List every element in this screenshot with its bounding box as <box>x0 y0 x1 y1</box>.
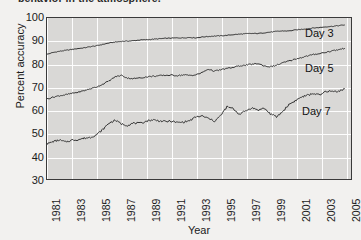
x-axis-tick-label: 1989 <box>150 199 162 222</box>
plot-area <box>46 17 352 180</box>
caption-strip: behavior in the atmosphere. <box>0 0 361 8</box>
x-axis-tick-label: 1997 <box>250 199 262 222</box>
series-label-day-3: Day 3 <box>305 27 334 39</box>
x-axis-tick-label: 1993 <box>200 199 212 222</box>
x-axis-tick-label: 2001 <box>300 199 312 222</box>
x-axis-tick-label: 1981 <box>50 199 62 222</box>
x-axis-tick-label: 1991 <box>175 199 187 222</box>
x-axis-tick-labels: 1981198319851987198919911993199519971999… <box>46 182 352 224</box>
series-line-day-5 <box>47 48 345 99</box>
y-axis-tick-label: 40 <box>0 151 44 163</box>
figure-caption-text: behavior in the atmosphere. <box>18 0 161 4</box>
y-axis-tick-label: 50 <box>0 127 44 139</box>
x-axis-tick-label: 2003 <box>325 199 337 222</box>
x-axis-tick-label: 1983 <box>75 199 87 222</box>
series-line-day-3 <box>47 25 345 54</box>
x-axis-tick-label: 1985 <box>100 199 112 222</box>
series-label-day-7: Day 7 <box>302 105 331 117</box>
x-axis-title: Year <box>46 224 352 236</box>
chart-page: behavior in the atmosphere. 304050607080… <box>0 0 361 240</box>
series-line-day-7 <box>47 88 345 144</box>
x-axis-tick-label: 1999 <box>275 199 287 222</box>
y-axis-title: Percent accuracy <box>14 6 26 126</box>
y-axis-tick-label: 30 <box>0 174 44 186</box>
x-axis-tick-label: 1995 <box>225 199 237 222</box>
series-lines <box>47 18 351 180</box>
series-label-day-5: Day 5 <box>305 62 334 74</box>
x-axis-tick-label: 1987 <box>125 199 137 222</box>
x-axis-tick-label: 2005 <box>350 199 361 222</box>
